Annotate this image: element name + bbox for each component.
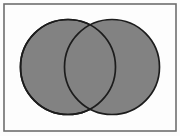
venn-canvas bbox=[0, 0, 180, 136]
venn-diagram-figure: Two overlapping circles Two equal gray c… bbox=[0, 0, 180, 136]
right-circle bbox=[65, 20, 160, 115]
